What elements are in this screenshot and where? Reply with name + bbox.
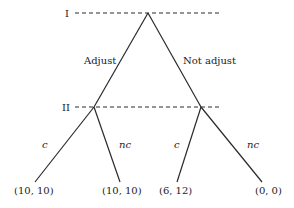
- payoff-3: (6, 12): [159, 185, 192, 196]
- payoff-1: (10, 10): [14, 185, 54, 196]
- payoff-4: (0, 0): [255, 185, 282, 196]
- player-one-label: I: [65, 8, 69, 19]
- player-two-label: II: [62, 102, 70, 113]
- game-tree-diagram: I II Adjust Not adjust c nc c nc (10, 10…: [0, 0, 294, 208]
- move-left-nc-label: nc: [119, 139, 131, 150]
- action-adjust-label: Adjust: [83, 55, 116, 66]
- branch-left-nc: [94, 107, 120, 182]
- payoff-2: (10, 10): [102, 185, 142, 196]
- branch-right-c: [177, 107, 201, 182]
- action-not-adjust-label: Not adjust: [183, 55, 236, 66]
- move-left-c-label: c: [42, 139, 48, 150]
- move-right-nc-label: nc: [247, 139, 259, 150]
- move-right-c-label: c: [174, 139, 180, 150]
